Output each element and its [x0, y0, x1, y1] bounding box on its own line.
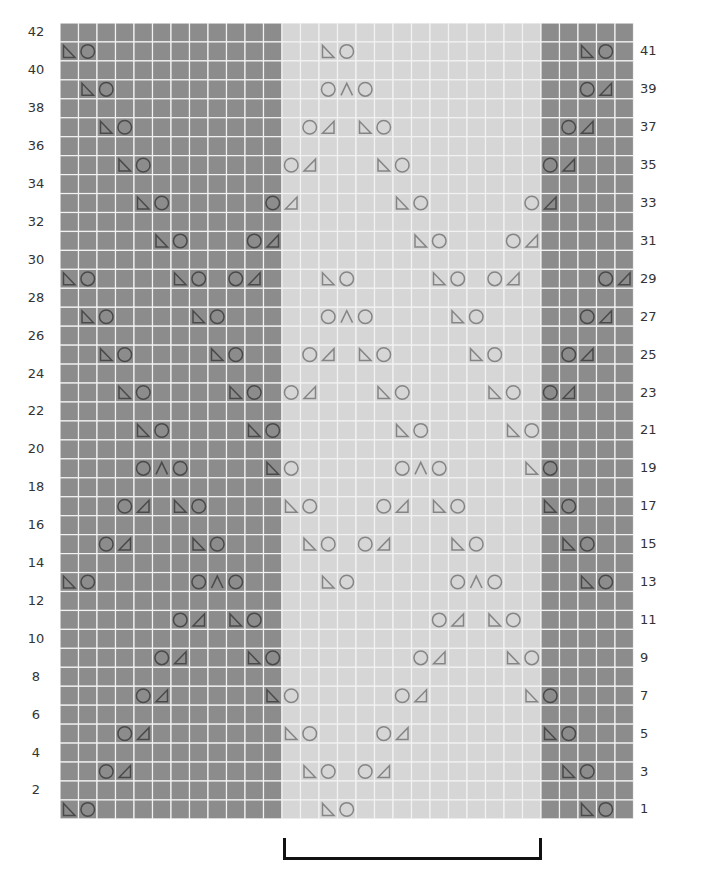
chart-cell: [560, 175, 579, 194]
row-number-label: 30: [20, 253, 52, 266]
chart-cell: [467, 402, 486, 421]
chart-cell: [356, 99, 375, 118]
chart-cell: [449, 648, 468, 667]
chart-cell: [134, 250, 153, 269]
chart-cell: [338, 99, 357, 118]
chart-cell: [560, 213, 579, 232]
row-number-label: 5: [640, 727, 670, 740]
chart-cell: [449, 42, 468, 61]
chart-cell: [430, 345, 449, 364]
chart-cell: [467, 269, 486, 288]
chart-cell: [467, 648, 486, 667]
chart-cell: [597, 724, 616, 743]
chart-cell: [486, 118, 505, 137]
chart-cell: [153, 269, 172, 288]
chart-cell: [560, 364, 579, 383]
chart-cell: [319, 250, 338, 269]
chart-cell: [282, 250, 301, 269]
chart-cell: [190, 345, 209, 364]
chart-cell: [134, 80, 153, 99]
chart-cell: [486, 307, 505, 326]
chart-cell: [97, 478, 116, 497]
chart-cell: [79, 213, 98, 232]
chart-cell: [116, 269, 135, 288]
chart-cell: [393, 573, 412, 592]
chart-cell: [430, 554, 449, 573]
chart-cell: [116, 478, 135, 497]
chart-cell: [97, 573, 116, 592]
chart-cell: [467, 118, 486, 137]
chart-cell: [504, 440, 523, 459]
chart-cell: [301, 213, 320, 232]
chart-cell: [171, 800, 190, 819]
chart-cell: [282, 288, 301, 307]
chart-cell: [578, 156, 597, 175]
chart-cell: [319, 705, 338, 724]
chart-cell: [356, 137, 375, 156]
chart-cell: [597, 364, 616, 383]
chart-cell: [301, 629, 320, 648]
chart-cell: [190, 118, 209, 137]
chart-cell: [523, 535, 542, 554]
chart-cell: [301, 592, 320, 611]
chart-cell: [134, 573, 153, 592]
chart-cell: [449, 250, 468, 269]
chart-cell: [449, 705, 468, 724]
chart-cell: [153, 288, 172, 307]
chart-cell: [615, 686, 634, 705]
chart-cell: [560, 23, 579, 42]
chart-cell: [560, 288, 579, 307]
chart-cell: [153, 781, 172, 800]
chart-cell: [153, 478, 172, 497]
chart-cell: [245, 288, 264, 307]
chart-cell: [541, 402, 560, 421]
chart-cell: [319, 288, 338, 307]
chart-cell: [412, 288, 431, 307]
chart-cell: [375, 573, 394, 592]
chart-cell: [560, 648, 579, 667]
chart-cell: [615, 402, 634, 421]
chart-cell: [79, 459, 98, 478]
chart-cell: [319, 554, 338, 573]
chart-cell: [245, 762, 264, 781]
chart-cell: [338, 762, 357, 781]
chart-cell: [153, 156, 172, 175]
chart-cell: [227, 137, 246, 156]
chart-cell: [60, 231, 79, 250]
chart-cell: [504, 402, 523, 421]
chart-cell: [615, 497, 634, 516]
chart-cell: [301, 648, 320, 667]
chart-cell: [245, 800, 264, 819]
chart-cell: [560, 478, 579, 497]
chart-cell: [338, 364, 357, 383]
chart-cell: [245, 23, 264, 42]
chart-cell: [208, 194, 227, 213]
chart-cell: [282, 592, 301, 611]
chart-cell: [60, 648, 79, 667]
chart-cell: [467, 667, 486, 686]
chart-cell: [264, 364, 283, 383]
chart-cell: [338, 440, 357, 459]
chart-cell: [412, 800, 431, 819]
chart-cell: [615, 478, 634, 497]
chart-cell: [97, 459, 116, 478]
chart-cell: [319, 478, 338, 497]
chart-cell: [430, 535, 449, 554]
chart-cell: [227, 175, 246, 194]
chart-cell: [60, 781, 79, 800]
chart-cell: [615, 42, 634, 61]
chart-cell: [375, 137, 394, 156]
chart-cell: [467, 705, 486, 724]
chart-cell: [597, 156, 616, 175]
chart-cell: [486, 781, 505, 800]
chart-cell: [449, 156, 468, 175]
row-number-label: 19: [640, 461, 670, 474]
chart-cell: [245, 156, 264, 175]
chart-cell: [412, 762, 431, 781]
chart-cell: [245, 61, 264, 80]
chart-cell: [97, 99, 116, 118]
chart-cell: [449, 194, 468, 213]
chart-cell: [245, 705, 264, 724]
chart-cell: [356, 269, 375, 288]
chart-cell: [116, 402, 135, 421]
